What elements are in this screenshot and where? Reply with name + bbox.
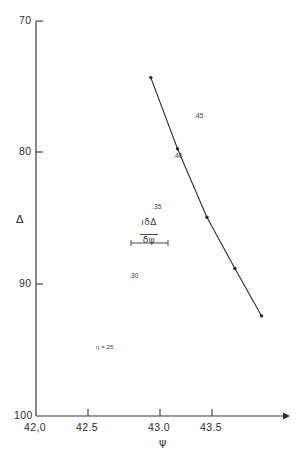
data-series-line [151,78,262,316]
y-tick-label-70: 70 [19,14,31,26]
data-point-label-40: .40 [173,152,183,159]
y-tick-label-90: 90 [19,277,31,289]
slope-annotation-numerator: δΔ [144,217,157,227]
data-point-marker[interactable] [205,216,208,219]
y-tick-label-100: 100 [14,409,33,421]
data-point-marker[interactable] [176,147,179,150]
slope-annotation-denominator: δψ [140,234,158,246]
x-tick-label-43-0: 43.0 [148,421,170,433]
slope-annotation: ıδΔ δψ [124,211,174,247]
data-point-marker[interactable] [149,76,152,79]
data-point-label-30: .30 [129,272,139,279]
y-tick-label-80: 80 [19,145,31,157]
figure-container: 70 80 90 100 42,0 42.5 43.0 43.5 Δ ψ η =… [0,0,300,461]
y-axis-title: Δ [16,213,24,226]
x-tick-label-42-0: 42,0 [24,421,46,433]
data-point-label-45: .45 [194,112,204,119]
x-axis-title: ψ [159,436,166,449]
data-point-label-eta-25: η =.25 [96,344,113,350]
data-point-marker[interactable] [233,267,236,270]
data-point-label-35: .35 [152,203,162,210]
data-point-marker[interactable] [260,314,263,317]
x-axis-arrow-icon [283,413,290,420]
x-tick-label-43-5: 43.5 [200,421,222,433]
x-tick-label-42-5: 42.5 [76,421,98,433]
